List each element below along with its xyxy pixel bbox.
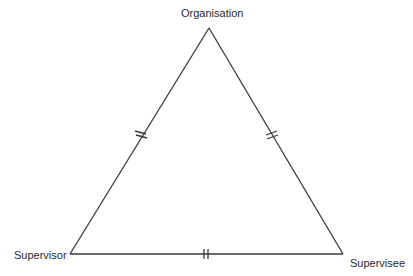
edge-organisation-supervisee <box>209 28 343 254</box>
vertex-label-supervisor: Supervisor <box>14 249 67 261</box>
edge-supervisor-organisation <box>70 28 209 254</box>
triangle-svg <box>0 0 413 276</box>
triangle-diagram: Organisation Supervisor Supervisee <box>0 0 413 276</box>
vertex-label-supervisee: Supervisee <box>350 257 405 269</box>
vertex-label-organisation: Organisation <box>181 7 243 19</box>
tick-marks <box>135 131 278 259</box>
